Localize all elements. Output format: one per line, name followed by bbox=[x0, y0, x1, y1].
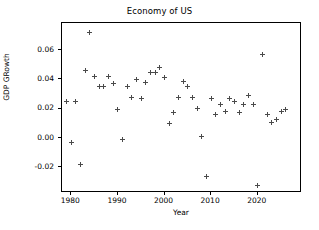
x-tick-mark bbox=[70, 192, 71, 195]
scatter-point bbox=[167, 121, 172, 126]
x-tick-mark bbox=[117, 192, 118, 195]
scatter-point bbox=[153, 70, 158, 75]
scatter-point bbox=[265, 112, 270, 117]
scatter-point bbox=[101, 84, 106, 89]
x-tick-label: 1980 bbox=[50, 196, 90, 205]
y-tick-label: -0.02 bbox=[10, 162, 54, 171]
x-tick-mark bbox=[257, 192, 258, 195]
scatter-point bbox=[87, 30, 92, 35]
scatter-point bbox=[97, 84, 102, 89]
scatter-point bbox=[283, 107, 288, 112]
y-axis-label: GDP GRowth bbox=[2, 37, 12, 117]
scatter-point bbox=[237, 110, 242, 115]
x-tick-label: 2020 bbox=[237, 196, 277, 205]
chart-title: Economy of US bbox=[0, 6, 319, 17]
scatter-point bbox=[148, 70, 153, 75]
scatter-point bbox=[92, 74, 97, 79]
y-tick-label: 0.06 bbox=[10, 45, 54, 54]
scatter-point bbox=[209, 96, 214, 101]
scatter-point bbox=[274, 117, 279, 122]
scatter-point bbox=[255, 183, 260, 188]
matplotlib-figure: Economy of US -0.020.000.020.040.06 1980… bbox=[0, 0, 319, 230]
scatter-point bbox=[78, 162, 83, 167]
scatter-point bbox=[139, 96, 144, 101]
x-tick-mark bbox=[164, 192, 165, 195]
scatter-point bbox=[64, 99, 69, 104]
x-tick-mark bbox=[210, 192, 211, 195]
scatter-point bbox=[190, 95, 195, 100]
scatter-point bbox=[232, 99, 237, 104]
scatter-point bbox=[227, 96, 232, 101]
scatter-point bbox=[279, 109, 284, 114]
scatter-point bbox=[134, 77, 139, 82]
scatter-point bbox=[106, 74, 111, 79]
scatter-point bbox=[213, 112, 218, 117]
scatter-point bbox=[218, 102, 223, 107]
scatter-point bbox=[260, 52, 265, 57]
scatter-points-layer bbox=[62, 23, 300, 191]
y-tick-label: 0.00 bbox=[10, 133, 54, 142]
x-tick-label: 1990 bbox=[97, 196, 137, 205]
x-tick-label: 2010 bbox=[190, 196, 230, 205]
scatter-point bbox=[115, 107, 120, 112]
scatter-point bbox=[223, 109, 228, 114]
scatter-point bbox=[199, 134, 204, 139]
scatter-point bbox=[157, 65, 162, 70]
y-tick-label: 0.02 bbox=[10, 103, 54, 112]
scatter-point bbox=[195, 106, 200, 111]
scatter-point bbox=[73, 99, 78, 104]
x-tick-label: 2000 bbox=[144, 196, 184, 205]
scatter-point bbox=[120, 137, 125, 142]
scatter-point bbox=[181, 79, 186, 84]
scatter-point bbox=[241, 102, 246, 107]
scatter-point bbox=[251, 102, 256, 107]
scatter-point bbox=[111, 81, 116, 86]
scatter-point bbox=[83, 68, 88, 73]
x-axis-label: Year bbox=[61, 208, 301, 218]
scatter-point bbox=[69, 140, 74, 145]
scatter-point bbox=[129, 95, 134, 100]
scatter-point bbox=[125, 84, 130, 89]
scatter-point bbox=[171, 110, 176, 115]
scatter-point bbox=[185, 84, 190, 89]
scatter-point bbox=[269, 120, 274, 125]
scatter-point bbox=[143, 80, 148, 85]
scatter-point bbox=[162, 75, 167, 80]
scatter-point bbox=[176, 95, 181, 100]
plot-area bbox=[61, 22, 301, 192]
scatter-point bbox=[204, 174, 209, 179]
scatter-point bbox=[246, 93, 251, 98]
y-tick-label: 0.04 bbox=[10, 74, 54, 83]
